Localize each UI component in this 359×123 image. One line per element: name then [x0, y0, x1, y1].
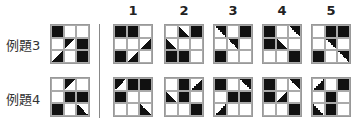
- grid-cell: [165, 91, 178, 104]
- grid-cell: [214, 78, 227, 91]
- divider-line: [99, 24, 100, 118]
- grid-cell: [312, 50, 325, 63]
- grid-cell: [76, 103, 89, 116]
- grid-cell: [276, 91, 289, 104]
- grid-cell: [337, 25, 350, 38]
- option-grid-2: [164, 24, 204, 64]
- grid-cell: [178, 25, 191, 38]
- grid-cell: [139, 91, 152, 104]
- grid-cell: [190, 50, 203, 63]
- grid-cell: [239, 91, 252, 104]
- option-grid-5: [311, 77, 351, 117]
- grid-cell: [64, 38, 77, 51]
- grid-cell: [139, 25, 152, 38]
- grid-cell: [114, 38, 127, 51]
- option-grid-4: [262, 77, 302, 117]
- example-label-3: 例題3: [6, 35, 40, 54]
- grid-cell: [127, 78, 140, 91]
- option-grid-4: [262, 24, 302, 64]
- grid-cell: [214, 50, 227, 63]
- grid-cell: [114, 103, 127, 116]
- grid-cell: [139, 38, 152, 51]
- grid-cell: [288, 38, 301, 51]
- grid-cell: [127, 91, 140, 104]
- option-grid-2: [164, 77, 204, 117]
- grid-cell: [64, 103, 77, 116]
- grid-cell: [139, 103, 152, 116]
- grid-cell: [127, 38, 140, 51]
- option-number-4: 4: [262, 3, 302, 18]
- grid-cell: [165, 50, 178, 63]
- grid-cell: [76, 91, 89, 104]
- grid-cell: [64, 78, 77, 91]
- grid-cell: [239, 38, 252, 51]
- grid-cell: [325, 25, 338, 38]
- example-grid: [50, 77, 90, 117]
- grid-cell: [239, 103, 252, 116]
- grid-cell: [139, 78, 152, 91]
- grid-cell: [325, 50, 338, 63]
- grid-cell: [214, 38, 227, 51]
- grid-cell: [276, 25, 289, 38]
- grid-cell: [337, 103, 350, 116]
- grid-cell: [325, 91, 338, 104]
- grid-cell: [288, 78, 301, 91]
- grid-cell: [276, 78, 289, 91]
- option-grid-3: [213, 77, 253, 117]
- grid-cell: [239, 78, 252, 91]
- grid-cell: [214, 91, 227, 104]
- grid-cell: [114, 25, 127, 38]
- grid-cell: [227, 78, 240, 91]
- option-number-2: 2: [164, 3, 204, 18]
- grid-cell: [165, 103, 178, 116]
- grid-cell: [190, 103, 203, 116]
- grid-cell: [276, 38, 289, 51]
- grid-cell: [178, 50, 191, 63]
- grid-cell: [64, 50, 77, 63]
- grid-cell: [76, 50, 89, 63]
- grid-cell: [178, 103, 191, 116]
- example-grid: [50, 24, 90, 64]
- grid-cell: [288, 103, 301, 116]
- grid-cell: [263, 50, 276, 63]
- grid-cell: [51, 50, 64, 63]
- grid-cell: [114, 78, 127, 91]
- grid-cell: [239, 25, 252, 38]
- option-number-3: 3: [213, 3, 253, 18]
- grid-cell: [51, 38, 64, 51]
- grid-cell: [190, 38, 203, 51]
- grid-cell: [190, 78, 203, 91]
- grid-cell: [263, 78, 276, 91]
- grid-cell: [288, 25, 301, 38]
- grid-cell: [51, 91, 64, 104]
- option-grid-1: [113, 24, 153, 64]
- grid-cell: [165, 78, 178, 91]
- grid-cell: [114, 50, 127, 63]
- grid-cell: [263, 25, 276, 38]
- grid-cell: [51, 78, 64, 91]
- grid-cell: [127, 50, 140, 63]
- option-grid-5: [311, 24, 351, 64]
- grid-cell: [214, 25, 227, 38]
- grid-cell: [263, 103, 276, 116]
- grid-cell: [178, 78, 191, 91]
- grid-cell: [76, 38, 89, 51]
- grid-cell: [312, 78, 325, 91]
- grid-cell: [227, 91, 240, 104]
- grid-cell: [325, 38, 338, 51]
- grid-cell: [127, 25, 140, 38]
- grid-cell: [337, 78, 350, 91]
- grid-cell: [312, 25, 325, 38]
- grid-cell: [325, 78, 338, 91]
- grid-cell: [190, 91, 203, 104]
- grid-cell: [276, 103, 289, 116]
- option-grid-3: [213, 24, 253, 64]
- grid-cell: [51, 103, 64, 116]
- grid-cell: [139, 50, 152, 63]
- grid-cell: [337, 50, 350, 63]
- grid-cell: [227, 25, 240, 38]
- option-number-1: 1: [113, 3, 153, 18]
- grid-cell: [227, 38, 240, 51]
- grid-cell: [214, 103, 227, 116]
- grid-cell: [76, 25, 89, 38]
